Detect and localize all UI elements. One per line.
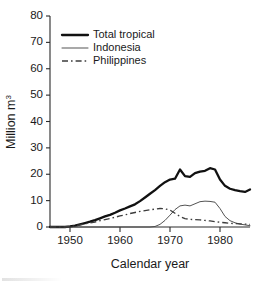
line-chart: 01020304050607080 1950196019701980 Total… — [0, 0, 272, 282]
scan-artifact — [2, 278, 62, 281]
legend-label-philippines: Philippines — [93, 54, 147, 66]
svg-text:Million m3: Million m3 — [4, 95, 18, 149]
x-tick-label: 1950 — [57, 234, 83, 246]
x-tick-label: 1980 — [207, 234, 233, 246]
x-axis-title: Calendar year — [111, 257, 190, 271]
y-tick-label: 50 — [30, 88, 43, 100]
series-line-philippines — [50, 209, 250, 227]
y-tick-label: 80 — [30, 9, 43, 21]
y-tick-label: 10 — [30, 194, 43, 206]
y-tick-label: 60 — [30, 62, 43, 74]
x-axis-ticks: 1950196019701980 — [57, 227, 233, 246]
y-tick-label: 30 — [30, 141, 43, 153]
y-axis-title-superscript: 3 — [4, 95, 13, 100]
x-tick-label: 1960 — [107, 234, 133, 246]
data-series-group — [50, 168, 250, 227]
chart-legend: Total tropicalIndonesiaPhilippines — [62, 28, 155, 66]
y-tick-label: 70 — [30, 35, 43, 47]
y-tick-label: 20 — [30, 167, 43, 179]
y-axis-title: Million m3 — [4, 95, 18, 149]
figure-container: 01020304050607080 1950196019701980 Total… — [0, 0, 272, 282]
x-tick-label: 1970 — [157, 234, 183, 246]
y-axis-ticks: 01020304050607080 — [30, 9, 50, 232]
y-axis-title-text: Million m — [4, 100, 18, 149]
series-line-indonesia — [50, 201, 250, 227]
y-tick-label: 0 — [37, 220, 43, 232]
y-tick-label: 40 — [30, 115, 43, 127]
legend-label-indonesia: Indonesia — [93, 41, 142, 53]
series-line-total-tropical — [50, 168, 250, 227]
legend-label-total-tropical: Total tropical — [93, 28, 155, 40]
